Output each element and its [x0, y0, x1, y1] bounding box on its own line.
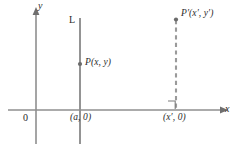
- point-p-prime-label: P′(x′, y′): [181, 9, 214, 19]
- point-a-zero-label: (a, 0): [70, 113, 91, 123]
- line-l-label: L: [69, 15, 75, 25]
- right-angle-marker: [168, 101, 175, 109]
- diagram-canvas: [0, 0, 237, 144]
- origin-label: 0: [23, 113, 28, 123]
- y-axis-label: y: [38, 1, 43, 11]
- x-axis-label: x: [225, 104, 230, 114]
- point-x-prime-zero-label: (x′, 0): [163, 113, 186, 123]
- point-p-label: P(x, y): [85, 58, 111, 68]
- point-p-marker: [78, 62, 82, 66]
- point-p-prime-marker: [174, 17, 178, 21]
- geometry-diagram: y x 0 L P(x, y) P′(x′, y′) (a, 0) (x′, 0…: [0, 0, 237, 144]
